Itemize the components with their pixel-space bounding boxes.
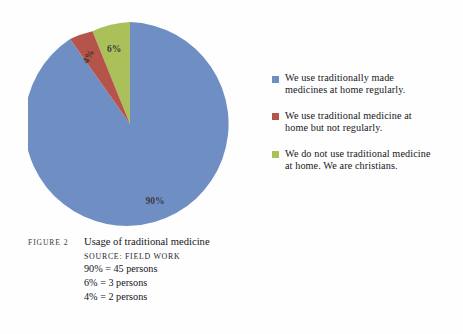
legend-item-label: We use traditionally made medicines at h… <box>285 72 405 97</box>
legend-line-2: at home. We are christians. <box>285 160 398 171</box>
pie-chart: 90% 6% 4% <box>28 22 232 226</box>
legend-line-1: We do not use traditional medicine <box>285 148 431 159</box>
figure-number-label: FIGURE 2 <box>28 238 84 247</box>
legend-line-1: We use traditionally made <box>285 72 394 83</box>
legend-line-2: medicines at home regularly. <box>285 84 405 95</box>
legend-item[interactable]: We do not use traditional medicine at ho… <box>272 148 460 173</box>
legend-line-2: home but not regularly. <box>285 122 382 133</box>
chart-legend: We use traditionally made medicines at h… <box>272 72 460 185</box>
legend-line-1: We use traditional medicine at <box>285 110 412 121</box>
figure-note: 4% = 2 persons <box>84 290 288 303</box>
pie-label-90: 90% <box>146 196 165 206</box>
legend-swatch-icon <box>272 151 279 158</box>
figure-note: 6% = 3 persons <box>84 276 288 289</box>
legend-item[interactable]: We use traditionally made medicines at h… <box>272 72 460 97</box>
pie-chart-svg: 90% 6% 4% <box>28 22 232 226</box>
figure-container: 90% 6% 4% We use traditionally made medi… <box>0 0 463 334</box>
legend-swatch-icon <box>272 113 279 120</box>
figure-caption: FIGURE 2 Usage of traditional medicine S… <box>28 236 288 303</box>
figure-title: Usage of traditional medicine <box>84 236 288 248</box>
legend-swatch-icon <box>272 76 279 83</box>
pie-label-6: 6% <box>107 44 121 54</box>
figure-source: SOURCE: FIELD WORK <box>84 252 288 261</box>
legend-item-label: We use traditional medicine at home but … <box>285 110 412 135</box>
figure-note: 90% = 45 persons <box>84 262 288 275</box>
legend-item-label: We do not use traditional medicine at ho… <box>285 148 431 173</box>
legend-item[interactable]: We use traditional medicine at home but … <box>272 110 460 135</box>
